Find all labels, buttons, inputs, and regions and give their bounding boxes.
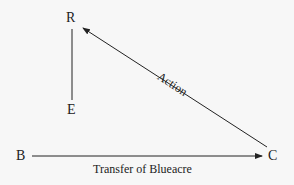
node-c: C (268, 149, 277, 163)
edge-label-transfer: Transfer of Blueacre (93, 163, 192, 175)
diagram-canvas: R E B C Action Transfer of Blueacre (0, 0, 294, 185)
node-e: E (67, 103, 76, 117)
diagram-lines (0, 0, 294, 185)
node-r: R (66, 11, 75, 25)
node-b: B (16, 149, 25, 163)
